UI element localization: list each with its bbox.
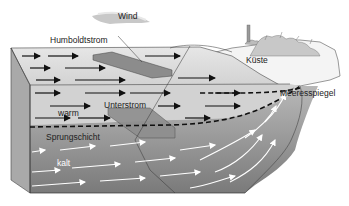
label-meeresspiegel: Meeresspiegel: [280, 89, 335, 98]
ocean-current-diagram: [0, 0, 349, 206]
label-humboldtstrom: Humboldtstrom: [50, 36, 108, 45]
label-kalt: kalt: [57, 159, 70, 168]
label-wind: Wind: [118, 12, 137, 21]
label-kueste: Küste: [246, 56, 268, 65]
label-unterstrom: Unterstrom: [104, 101, 146, 110]
label-warm: warm: [58, 109, 79, 118]
label-sprungschicht: Sprungschicht: [46, 133, 100, 142]
